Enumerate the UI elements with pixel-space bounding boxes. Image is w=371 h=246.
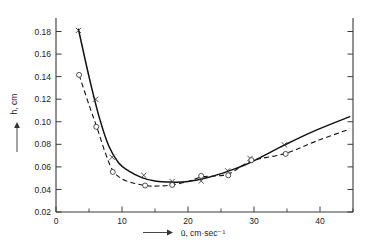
series-line-dashed-curve [79,75,350,186]
x-tick-label: 30 [249,216,259,226]
marker-o [77,72,82,77]
x-axis-arrow-head [167,230,173,236]
y-tick-label: 0.02 [34,207,51,217]
x-tick-label: 10 [117,216,127,226]
marker-o [143,183,148,188]
x-tick-label: 40 [315,216,325,226]
marker-o [226,173,231,178]
data-markers [76,28,288,188]
y-tick-label: 0.16 [34,49,51,59]
x-tick-label: 20 [183,216,193,226]
y-axis-arrow-head [14,122,20,128]
marker-o [170,182,175,187]
tick-labels: 0.020.040.060.080.100.120.140.160.180102… [34,27,325,226]
data-series [78,29,349,186]
series-line-solid-curve [78,29,349,182]
x-axis-title: ū, cm·sec⁻¹ [181,228,226,238]
x-tick-label: 0 [54,216,59,226]
y-tick-label: 0.10 [34,117,51,127]
y-tick-label: 0.08 [34,139,51,149]
chart-canvas: 0.020.040.060.080.100.120.140.160.180102… [0,0,371,246]
marker-o [199,173,204,178]
marker-o [94,124,99,129]
axes [56,18,353,212]
y-tick-label: 0.12 [34,94,51,104]
chart-figure: 0.020.040.060.080.100.120.140.160.180102… [0,0,371,246]
marker-o [110,169,115,174]
marker-o [283,151,288,156]
marker-x [141,173,146,178]
y-axis-title: h, cm [9,94,19,115]
y-tick-label: 0.06 [34,162,51,172]
marker-o [249,158,254,163]
y-tick-label: 0.18 [34,27,51,37]
y-tick-label: 0.14 [34,72,51,82]
y-tick-label: 0.04 [34,185,51,195]
